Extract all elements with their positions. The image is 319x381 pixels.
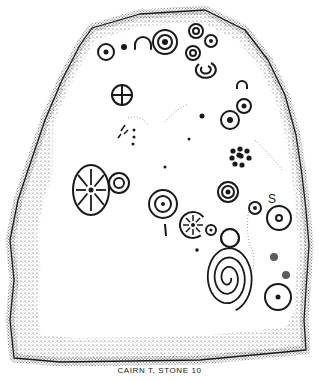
stone-outline	[10, 10, 309, 362]
wheel-cross	[112, 85, 132, 105]
ring-with-arcs	[218, 182, 238, 202]
svg-text:S: S	[268, 192, 276, 206]
stone-illustration: S	[0, 0, 319, 381]
lone-dot-b	[188, 138, 191, 141]
oval-sunburst	[73, 165, 109, 215]
vertical-stroke	[165, 224, 166, 236]
figure-caption: CAIRN T, STONE 10	[0, 366, 319, 375]
s-mark: S	[268, 192, 276, 206]
dot-below-wheel	[195, 248, 199, 252]
cup-mark	[121, 44, 127, 50]
lone-dot-c	[164, 166, 167, 169]
cup-right-a	[270, 253, 278, 261]
cup-right-b	[282, 271, 290, 279]
lone-dot-a	[200, 114, 205, 119]
